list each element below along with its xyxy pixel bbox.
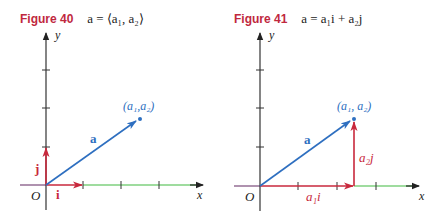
x-axis-label: x — [419, 189, 424, 204]
figure-41-plot — [224, 0, 448, 223]
a-label: a — [304, 132, 311, 148]
a1-i-label: a₁i — [306, 189, 321, 205]
point-a1-a2 — [352, 117, 356, 121]
point-label: (a₁, a₂) — [337, 99, 371, 114]
y-axis-label: y — [269, 28, 274, 43]
point-label: (a₁,a₂) — [123, 99, 154, 114]
x-axis-label: x — [197, 188, 202, 203]
vector-a — [260, 121, 350, 186]
origin-label: O — [245, 189, 254, 205]
j-label: j — [35, 161, 39, 177]
origin-label: O — [31, 188, 40, 204]
y-axis-label: y — [55, 28, 60, 43]
i-label: i — [56, 187, 60, 203]
figure-40: Figure 40 a = ⟨a₁, a₂⟩ — [0, 0, 224, 223]
a2-j-label: a₂j — [359, 150, 374, 166]
figure-41: Figure 41 a = a₁i + a₂j — [224, 0, 448, 223]
point-a1-a2 — [138, 117, 142, 121]
a-label: a — [90, 131, 97, 147]
